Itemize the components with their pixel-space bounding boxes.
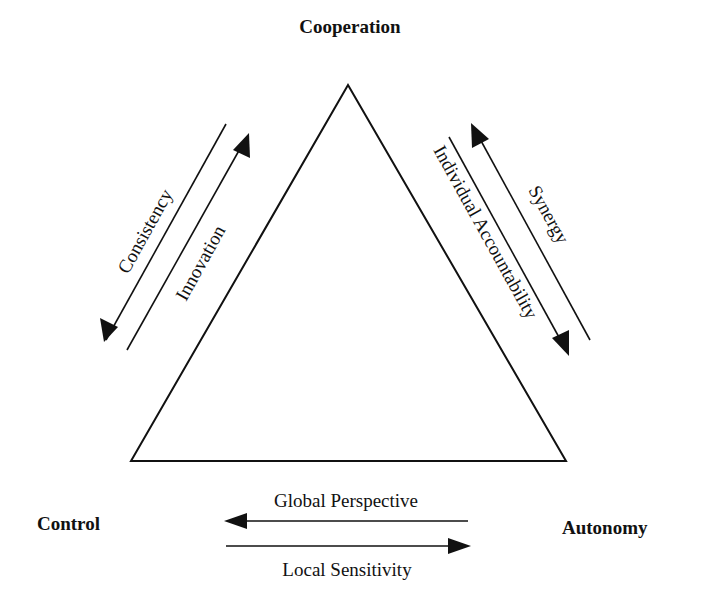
- global-perspective-arrow: [224, 513, 468, 529]
- local-sensitivity-arrow: [226, 538, 471, 554]
- corner-label-cooperation: Cooperation: [299, 16, 401, 37]
- edge-label-innovation: Innovation: [171, 221, 230, 304]
- corner-label-control: Control: [37, 513, 100, 534]
- edge-label-individual-accountability: Individual Accountability: [430, 142, 543, 323]
- arrowhead-icon: [233, 133, 250, 158]
- arrowhead-icon: [100, 318, 118, 342]
- arrowhead-icon: [448, 538, 471, 554]
- arrowhead-icon: [471, 123, 489, 148]
- arrowhead-icon: [224, 513, 247, 529]
- corner-label-autonomy: Autonomy: [562, 517, 648, 538]
- edge-label-local-sensitivity: Local Sensitivity: [282, 559, 412, 580]
- edge-label-synergy: Synergy: [525, 182, 574, 248]
- tension-triangle-diagram: Cooperation Control Autonomy Consistency…: [0, 0, 703, 612]
- arrowhead-icon: [552, 330, 569, 356]
- edge-label-global-perspective: Global Perspective: [274, 490, 418, 511]
- individual-accountability-arrow: [449, 137, 569, 356]
